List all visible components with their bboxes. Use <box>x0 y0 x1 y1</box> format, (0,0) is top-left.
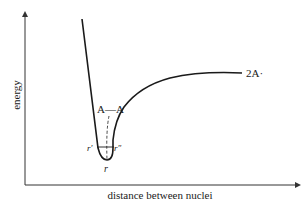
potential-energy-diagram: A—A 2A· r′ r″ r energy distance between … <box>0 0 307 206</box>
bond-label: A—A <box>97 103 124 115</box>
left-turning-point-label: r′ <box>87 143 94 153</box>
energy-curve <box>82 19 242 160</box>
equilibrium-label: r <box>104 163 108 174</box>
dissociated-label: 2A· <box>246 67 263 79</box>
x-axis-label: distance between nuclei <box>107 189 212 201</box>
right-turning-point-label: r″ <box>114 143 122 153</box>
equilibrium-dashed-line <box>107 116 109 160</box>
y-axis-label: energy <box>10 80 22 110</box>
